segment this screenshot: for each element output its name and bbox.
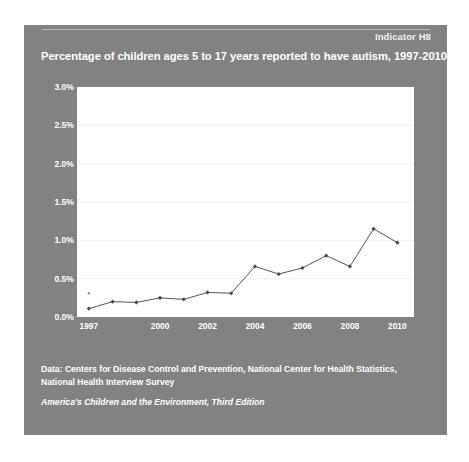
chart-footer: Data: Centers for Disease Control and Pr… bbox=[41, 363, 433, 408]
screenshot-root: Indicator H8 Percentage of children ages… bbox=[0, 0, 469, 462]
y-axis-tick-label: 3.0% bbox=[28, 83, 74, 92]
indicator-card: Indicator H8 Percentage of children ages… bbox=[24, 25, 447, 435]
data-point-marker bbox=[134, 300, 138, 304]
x-axis-tick-label: 1997 bbox=[80, 321, 99, 331]
data-point-marker bbox=[110, 300, 114, 304]
y-axis-tick-label: 1.5% bbox=[28, 198, 74, 207]
y-axis-tick-label: 0.0% bbox=[28, 313, 74, 322]
data-point-marker bbox=[324, 254, 328, 258]
gridlines bbox=[77, 125, 414, 278]
y-axis-tick-label: 0.5% bbox=[28, 275, 74, 284]
plot-area: * bbox=[77, 87, 414, 317]
data-source-line-2: National Health Interview Survey bbox=[41, 376, 433, 389]
x-axis-tick-labels: 1997200020022004200620082010 bbox=[77, 321, 414, 337]
x-axis-tick-label: 2008 bbox=[341, 321, 360, 331]
data-point-marker bbox=[182, 297, 186, 301]
indicator-tag: Indicator H8 bbox=[375, 31, 431, 42]
x-axis-tick-label: 2000 bbox=[151, 321, 170, 331]
data-point-marker bbox=[300, 266, 304, 270]
y-axis-tick-labels: 3.0%2.5%2.0%1.5%1.0%0.5%0.0% bbox=[24, 87, 74, 317]
data-point-marker bbox=[395, 241, 399, 245]
y-axis-tick-label: 1.0% bbox=[28, 236, 74, 245]
publication-edition: America's Children and the Environment, … bbox=[41, 396, 433, 408]
x-axis-tick-label: 2010 bbox=[388, 321, 407, 331]
line-chart-svg: * bbox=[77, 87, 414, 317]
y-axis-tick-label: 2.5% bbox=[28, 121, 74, 130]
y-axis-tick-label: 2.0% bbox=[28, 160, 74, 169]
data-point-marker bbox=[158, 296, 162, 300]
data-point-markers bbox=[87, 227, 400, 311]
chart-title: Percentage of children ages 5 to 17 year… bbox=[41, 50, 436, 62]
footnote-marker-1997: * bbox=[87, 290, 90, 299]
x-axis-tick-label: 2006 bbox=[293, 321, 312, 331]
data-point-marker bbox=[87, 306, 91, 310]
x-axis-tick-label: 2004 bbox=[246, 321, 265, 331]
chart-annotations: * bbox=[87, 290, 90, 299]
header-divider bbox=[42, 29, 430, 30]
data-point-marker bbox=[205, 290, 209, 294]
data-source-line-1: Data: Centers for Disease Control and Pr… bbox=[41, 363, 433, 376]
data-point-marker bbox=[277, 272, 281, 276]
x-axis-tick-label: 2002 bbox=[198, 321, 217, 331]
